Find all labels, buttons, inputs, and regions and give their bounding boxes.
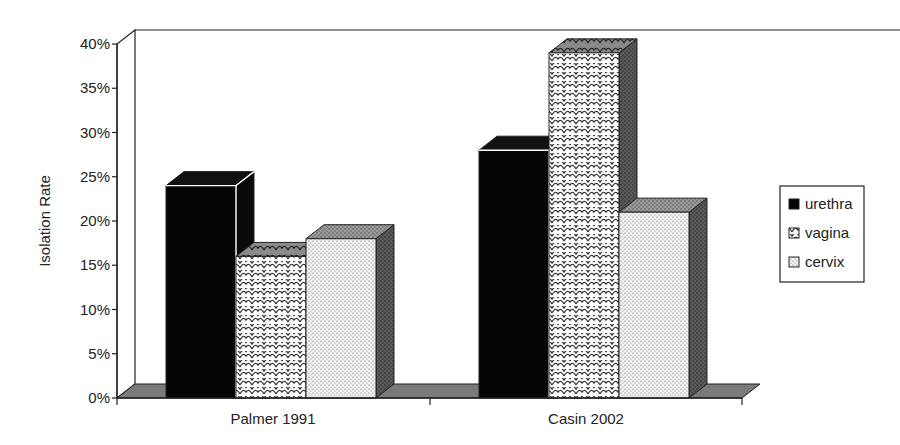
bars bbox=[166, 39, 707, 398]
legend-label-urethra: urethra bbox=[805, 195, 853, 212]
y-tick-label: 25% bbox=[80, 168, 110, 185]
y-axis-label: Isolation Rate bbox=[36, 175, 53, 267]
y-axis: 0%5%10%15%20%25%30%35%40% bbox=[80, 35, 117, 406]
x-axis: Palmer 1991Casin 2002 bbox=[117, 398, 742, 427]
legend-swatch-urethra bbox=[789, 199, 799, 209]
y-tick-label: 35% bbox=[80, 79, 110, 96]
y-tick-label: 30% bbox=[80, 124, 110, 141]
y-tick-label: 15% bbox=[80, 256, 110, 273]
legend-label-cervix: cervix bbox=[805, 253, 845, 270]
legend-swatch-vagina bbox=[789, 228, 799, 238]
x-category-label: Palmer 1991 bbox=[230, 410, 315, 427]
y-tick-label: 0% bbox=[88, 389, 110, 406]
y-tick-label: 5% bbox=[88, 345, 110, 362]
y-tick-label: 20% bbox=[80, 212, 110, 229]
chart: 0%5%10%15%20%25%30%35%40% Palmer 1991Cas… bbox=[0, 0, 900, 445]
bar-cervix-1 bbox=[619, 198, 707, 398]
y-tick-label: 10% bbox=[80, 301, 110, 318]
bar-cervix-0 bbox=[306, 225, 394, 398]
legend-label-vagina: vagina bbox=[805, 224, 850, 241]
y-tick-label: 40% bbox=[80, 35, 110, 52]
legend-swatch-cervix bbox=[789, 257, 799, 267]
legend: urethravaginacervix bbox=[780, 186, 864, 282]
x-category-label: Casin 2002 bbox=[548, 410, 624, 427]
